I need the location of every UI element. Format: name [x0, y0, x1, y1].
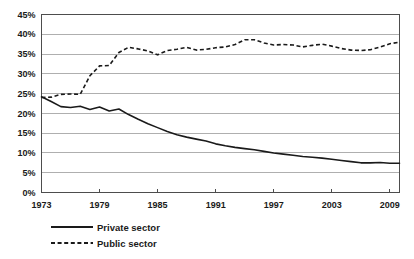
- gridlines: [42, 15, 400, 173]
- y-axis-tick-label: 15%: [17, 128, 35, 138]
- x-axis-tick-label: 2009: [380, 200, 400, 210]
- y-axis-tick-labels: 45%40%35%30%25%20%15%10%5%0%: [17, 10, 35, 198]
- x-axis-tick-label: 1991: [206, 200, 226, 210]
- line-chart: 45%40%35%30%25%20%15%10%5%0% 19731979198…: [0, 0, 414, 259]
- y-axis-tick-label: 5%: [22, 168, 35, 178]
- plot-area-frame: [42, 15, 400, 193]
- y-axis-tick-label: 40%: [17, 29, 35, 39]
- x-axis-tick-label: 1985: [148, 200, 168, 210]
- y-axis-tick-label: 30%: [17, 69, 35, 79]
- y-axis-tick-label: 10%: [17, 148, 35, 158]
- y-axis-tick-label: 20%: [17, 109, 35, 119]
- y-axis-tick-label: 45%: [17, 10, 35, 20]
- series-line-public-sector: [42, 40, 400, 98]
- y-axis-tick-label: 0%: [22, 188, 35, 198]
- x-axis-tickmarks: [100, 189, 390, 193]
- data-series: [42, 40, 400, 163]
- chart-legend: Private sectorPublic sector: [51, 222, 160, 249]
- x-axis-tick-label: 1973: [31, 200, 51, 210]
- chart-container: 45%40%35%30%25%20%15%10%5%0% 19731979198…: [0, 0, 414, 259]
- x-axis-tick-labels: 1973197919851991199720032009: [31, 200, 399, 210]
- x-axis-tick-label: 2003: [322, 200, 342, 210]
- x-axis-tick-label: 1997: [264, 200, 284, 210]
- legend-label-private-sector: Private sector: [97, 222, 160, 233]
- legend-label-public-sector: Public sector: [97, 238, 157, 249]
- x-axis-tick-label: 1979: [90, 200, 110, 210]
- y-axis-tick-label: 35%: [17, 49, 35, 59]
- y-axis-tick-label: 25%: [17, 89, 35, 99]
